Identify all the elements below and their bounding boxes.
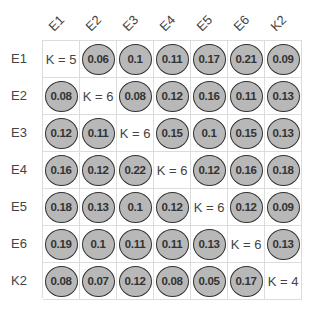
column-label-text: E3 [119,12,141,34]
diagonal-cell: K = 4 [265,263,302,300]
value-bubble: 0.16 [230,155,263,186]
row-label: E2 [0,77,38,114]
row-label: E4 [0,151,38,188]
matrix-cell: 0.16 [191,78,228,115]
value-bubble: 0.13 [267,81,300,112]
diagonal-k-label: K = 5 [46,52,77,67]
value-bubble: 0.13 [193,229,226,260]
column-label-text: K2 [267,12,289,34]
matrix-cell: 0.17 [191,41,228,78]
value-bubble: 0.1 [193,118,226,149]
row-label: E3 [0,114,38,151]
matrix-cell: 0.1 [117,41,154,78]
diagonal-cell: K = 6 [80,78,117,115]
matrix-cell: 0.21 [228,41,265,78]
matrix-cell: 0.08 [117,78,154,115]
matrix-cell: 0.13 [265,78,302,115]
matrix-cell: 0.1 [117,189,154,226]
value-bubble: 0.11 [230,81,263,112]
value-bubble: 0.12 [82,155,115,186]
matrix-cell: 0.1 [80,226,117,263]
value-bubble: 0.15 [230,118,263,149]
matrix-cell: 0.13 [265,115,302,152]
matrix-cell: 0.12 [117,263,154,300]
matrix-cell: 0.11 [117,226,154,263]
value-bubble: 0.11 [156,44,189,75]
diagonal-k-label: K = 6 [120,126,151,141]
column-label: K2 [268,10,305,38]
diagonal-k-label: K = 4 [268,274,299,289]
value-bubble: 0.13 [267,118,300,149]
value-bubble: 0.08 [45,81,78,112]
matrix-cell: 0.11 [154,41,191,78]
value-bubble: 0.08 [45,266,78,297]
matrix-cell: 0.08 [43,263,80,300]
matrix-grid: K = 50.060.10.110.170.210.090.08K = 60.0… [42,40,302,298]
matrix-cell: 0.05 [191,263,228,300]
matrix-cell: 0.13 [265,226,302,263]
matrix-cell: 0.12 [43,115,80,152]
column-label: E5 [194,10,231,38]
column-label-text: E6 [230,12,252,34]
value-bubble: 0.09 [267,44,300,75]
matrix-cell: 0.11 [228,78,265,115]
value-bubble: 0.11 [156,229,189,260]
value-bubble: 0.12 [119,266,152,297]
column-label-text: E4 [156,12,178,34]
matrix-cell: 0.12 [154,189,191,226]
value-bubble: 0.12 [45,118,78,149]
matrix-cell: 0.22 [117,152,154,189]
value-bubble: 0.1 [119,44,152,75]
matrix-cell: 0.16 [228,152,265,189]
diagonal-cell: K = 6 [154,152,191,189]
value-bubble: 0.11 [119,229,152,260]
matrix-cell: 0.13 [80,189,117,226]
value-bubble: 0.13 [82,192,115,223]
value-bubble: 0.16 [45,155,78,186]
matrix-cell: 0.13 [191,226,228,263]
matrix-cell: 0.19 [43,226,80,263]
value-bubble: 0.15 [156,118,189,149]
value-bubble: 0.21 [230,44,263,75]
row-label: E1 [0,40,38,77]
value-bubble: 0.22 [119,155,152,186]
value-bubble: 0.18 [45,192,78,223]
matrix-cell: 0.12 [154,78,191,115]
value-bubble: 0.17 [193,44,226,75]
value-bubble: 0.16 [193,81,226,112]
diagonal-cell: K = 6 [191,189,228,226]
matrix-cell: 0.11 [80,115,117,152]
value-bubble: 0.12 [230,192,263,223]
matrix-cell: 0.12 [191,152,228,189]
matrix-cell: 0.12 [80,152,117,189]
matrix-cell: 0.08 [154,263,191,300]
column-label: E2 [83,10,120,38]
value-bubble: 0.09 [267,192,300,223]
matrix-cell: 0.1 [191,115,228,152]
row-label: K2 [0,262,38,299]
value-bubble: 0.06 [82,44,115,75]
value-bubble: 0.12 [156,192,189,223]
column-label: E6 [231,10,268,38]
diagonal-cell: K = 6 [228,226,265,263]
matrix-cell: 0.16 [43,152,80,189]
value-bubble: 0.13 [267,229,300,260]
row-label: E6 [0,225,38,262]
column-label: E4 [157,10,194,38]
value-bubble: 0.07 [82,266,115,297]
column-label: E1 [46,10,83,38]
matrix-cell: 0.12 [228,189,265,226]
diagonal-k-label: K = 6 [231,237,262,252]
value-bubble: 0.08 [156,266,189,297]
column-label: E3 [120,10,157,38]
matrix-cell: 0.15 [228,115,265,152]
diagonal-cell: K = 6 [117,115,154,152]
column-label-text: E5 [193,12,215,34]
matrix-cell: 0.07 [80,263,117,300]
value-bubble: 0.17 [230,266,263,297]
matrix-cell: 0.11 [154,226,191,263]
value-bubble: 0.1 [82,229,115,260]
matrix-cell: 0.09 [265,189,302,226]
diagonal-k-label: K = 6 [157,163,188,178]
value-bubble: 0.05 [193,266,226,297]
